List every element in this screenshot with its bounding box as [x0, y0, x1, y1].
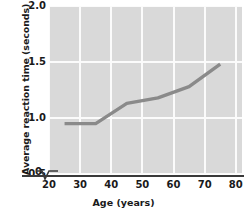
x-axis-tick-labels: 20304050607080 — [0, 179, 247, 193]
plot-area — [49, 6, 242, 174]
y-axis-tick-label: 1.5 — [22, 57, 46, 67]
x-axis-title: Age (years) — [0, 197, 247, 208]
x-axis-tick-label: 70 — [190, 179, 220, 191]
x-axis-tick-label: 40 — [96, 179, 126, 191]
y-axis-tick-label: 1.0 — [22, 113, 46, 123]
y-axis-tick-label: 2.0 — [22, 1, 46, 11]
x-axis-tick-label: 20 — [34, 179, 64, 191]
x-axis-tick-label: 50 — [127, 179, 157, 191]
series-line — [49, 6, 242, 174]
x-axis-tick-label: 30 — [65, 179, 95, 191]
chart-figure: Average reaction time (seconds) 0.51.01.… — [0, 0, 247, 218]
x-axis-tick-label: 60 — [159, 179, 189, 191]
x-axis-tick-label: 80 — [221, 179, 247, 191]
